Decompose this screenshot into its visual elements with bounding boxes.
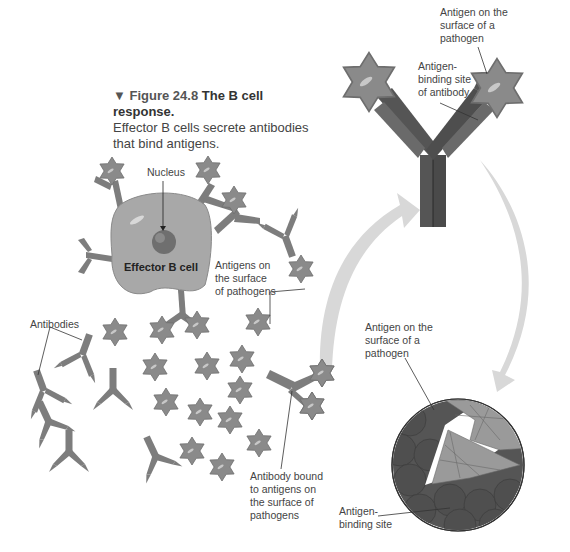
caption-body: Effector B cells secrete antibodies that… xyxy=(113,120,309,151)
label-antigens-surface-pathogens: Antigens on the surface of pathogens xyxy=(215,259,276,298)
figure-caption: ▼ Figure 24.8 The B cell response. Effec… xyxy=(113,88,313,152)
caption-marker: ▼ xyxy=(113,88,126,103)
label-zoom-binding-site: Antigen- binding site xyxy=(339,505,392,531)
label-effector-b-cell: Effector B cell xyxy=(124,261,198,273)
flow-arrow-down xyxy=(480,160,529,392)
label-antibodies: Antibodies xyxy=(30,318,79,331)
label-top-binding-site: Antigen- binding site of antibody xyxy=(418,60,471,99)
label-nucleus: Nucleus xyxy=(147,166,185,179)
label-top-antigen: Antigen on the surface of a pathogen xyxy=(440,6,508,45)
figure-number: Figure 24.8 xyxy=(130,88,199,103)
label-antibody-bound: Antibody bound to antigens on the surfac… xyxy=(250,470,323,522)
zoom-circle xyxy=(384,395,530,541)
label-zoom-antigen: Antigen on the surface of a pathogen xyxy=(365,321,433,360)
